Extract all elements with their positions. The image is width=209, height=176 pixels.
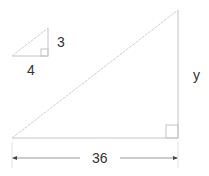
small-base-label: 4 (27, 63, 35, 77)
right-angle-marker (41, 49, 48, 56)
small-height-label: 3 (57, 35, 65, 49)
large-triangle (12, 10, 178, 138)
large-height-label: y (193, 68, 200, 82)
small-triangle (12, 28, 48, 56)
right-angle-marker (166, 125, 178, 138)
large-base-label: 36 (92, 151, 108, 165)
